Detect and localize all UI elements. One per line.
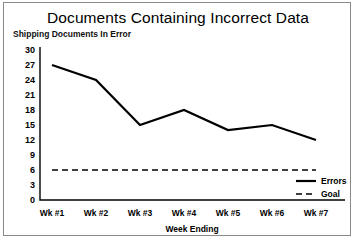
y-tick-24: 24 xyxy=(25,75,35,85)
x-tick-wk-4: Wk #4 xyxy=(172,208,197,218)
y-tick-21: 21 xyxy=(25,90,35,100)
plot-area: 30 27 24 21 18 15 12 9 6 3 0 Wk #1 Wk xyxy=(4,3,352,237)
y-axis-tick-labels: 30 27 24 21 18 15 12 9 6 3 0 xyxy=(25,45,35,205)
x-tick-wk-2: Wk #2 xyxy=(84,208,109,218)
y-tick-15: 15 xyxy=(25,120,35,130)
x-tick-wk-1: Wk #1 xyxy=(40,208,65,218)
x-tick-wk-7: Wk #7 xyxy=(304,208,329,218)
line-chart-svg: 30 27 24 21 18 15 12 9 6 3 0 Wk #1 Wk xyxy=(4,3,352,237)
legend-label-errors: Errors xyxy=(321,176,347,186)
x-axis-title: Week Ending xyxy=(165,224,218,234)
axis-lines xyxy=(40,47,345,200)
y-tick-0: 0 xyxy=(30,195,35,205)
y-tick-27: 27 xyxy=(25,60,35,70)
x-axis-tick-labels: Wk #1 Wk #2 Wk #3 Wk #4 Wk #5 Wk #6 Wk #… xyxy=(40,208,329,218)
x-tick-wk-3: Wk #3 xyxy=(128,208,153,218)
series-line-errors xyxy=(52,65,316,140)
legend-label-goal: Goal xyxy=(321,189,340,199)
y-tick-18: 18 xyxy=(25,105,35,115)
y-tick-12: 12 xyxy=(25,135,35,145)
chart-frame: Documents Containing Incorrect Data Ship… xyxy=(3,2,351,236)
y-tick-9: 9 xyxy=(30,150,35,160)
y-tick-6: 6 xyxy=(30,165,35,175)
x-tick-wk-6: Wk #6 xyxy=(260,208,285,218)
chart-legend: Errors Goal xyxy=(296,176,347,199)
y-tick-3: 3 xyxy=(30,180,35,190)
y-tick-30: 30 xyxy=(25,45,35,55)
x-tick-wk-5: Wk #5 xyxy=(216,208,241,218)
